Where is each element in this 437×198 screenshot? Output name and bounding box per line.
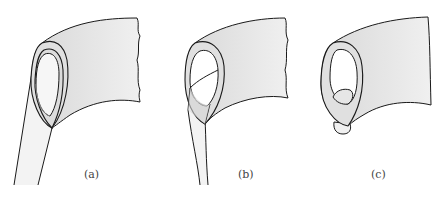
figure: (a) (b) (c) <box>0 0 437 198</box>
panel-c-label: (c) <box>371 168 386 181</box>
panel-a-drawing <box>14 18 140 185</box>
panel-a-label: (a) <box>84 168 99 181</box>
panel-c-drawing <box>321 17 431 134</box>
panel-b-drawing <box>185 18 288 185</box>
panel-b-label: (b) <box>238 168 254 181</box>
